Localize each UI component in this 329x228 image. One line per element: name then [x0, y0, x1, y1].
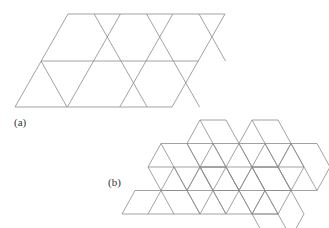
tiling-diagram	[0, 0, 329, 228]
rhombus-edge	[200, 120, 213, 144]
rhombus-edge	[291, 214, 304, 228]
rhombus-edge	[161, 144, 174, 168]
rhombus-edge	[317, 144, 329, 168]
slash-line	[67, 14, 120, 107]
rhombus-edge	[161, 167, 174, 191]
rhombus-edge	[252, 120, 265, 144]
rhombus-edge	[187, 167, 200, 191]
rhombus-edge	[278, 144, 291, 168]
backslash-line	[94, 14, 147, 107]
rhombus-edge	[317, 167, 329, 191]
rhombus-edge	[304, 167, 317, 191]
rhombus-edge	[213, 191, 226, 215]
rhombus-edge	[291, 144, 304, 168]
rhombus-edge	[278, 214, 291, 228]
rhombus-edge	[265, 144, 278, 168]
rhombus-edge	[187, 144, 200, 168]
rhombus-edge	[252, 191, 265, 215]
slash-line	[120, 14, 173, 107]
rhombus-edge	[187, 120, 200, 144]
rhombus-edge	[291, 191, 304, 215]
rhombus-edge	[278, 191, 291, 215]
rhombus-edge	[226, 191, 239, 215]
panel-b-label: (b)	[108, 176, 121, 188]
parallelogram-right-edge	[172, 14, 225, 107]
rhombus-edge	[187, 191, 200, 215]
parallelogram-left-edge	[15, 14, 68, 107]
rhombus-edge	[161, 191, 174, 215]
rhombus-edge	[200, 144, 213, 168]
rhombus-edge	[278, 167, 291, 191]
rhombus-edge	[200, 191, 213, 215]
rhombus-edge	[278, 120, 291, 144]
rhombus-edge	[239, 167, 252, 191]
rhombus-edge	[252, 167, 265, 191]
rhombus-edge	[226, 144, 239, 168]
rhombus-edge	[122, 191, 135, 215]
panel-a-label: (a)	[14, 116, 26, 128]
rhombus-edge	[226, 167, 239, 191]
rhombus-edge	[213, 167, 226, 191]
rhombus-edge	[148, 144, 161, 168]
backslash-line	[199, 14, 226, 61]
rhombus-edge	[239, 144, 252, 168]
rhombus-edge	[239, 191, 252, 215]
rhombus-edge	[252, 214, 265, 228]
rhombus-edge	[265, 191, 278, 215]
rhombus-edge	[252, 144, 265, 168]
rhombus-edge	[174, 167, 187, 191]
rhombus-edge	[200, 167, 213, 191]
rhombus-edge	[226, 120, 239, 144]
backslash-line	[41, 61, 67, 107]
backslash-line	[147, 14, 200, 107]
rhombus-edge	[239, 120, 252, 144]
rhombus-edge	[291, 167, 304, 191]
rhombus-edge	[148, 167, 161, 191]
rhombus-edge	[213, 144, 226, 168]
rhombus-edge	[148, 191, 161, 215]
